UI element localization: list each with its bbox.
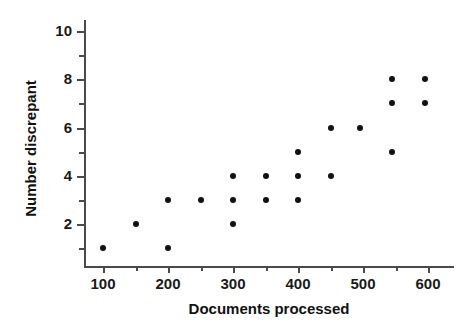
data-point [165,197,171,203]
data-point [263,197,269,203]
data-point [422,100,428,106]
data-point [165,245,171,251]
data-point [389,100,395,106]
data-point [263,173,269,179]
data-point [328,125,334,131]
data-point [422,76,428,82]
data-point [295,149,301,155]
data-point [100,245,106,251]
data-point [295,173,301,179]
data-point [230,197,236,203]
data-point [389,149,395,155]
plot-area [0,0,473,329]
scatter-chart: 246810 100200300400500600 Number discrep… [0,0,473,329]
data-point [357,125,363,131]
data-point [133,221,139,227]
y-axis-title: Number discrepant [22,49,39,249]
data-point [230,221,236,227]
data-point [295,197,301,203]
data-point [230,173,236,179]
x-axis-title: Documents processed [84,300,454,317]
data-point [328,173,334,179]
data-point [389,76,395,82]
data-point [198,197,204,203]
